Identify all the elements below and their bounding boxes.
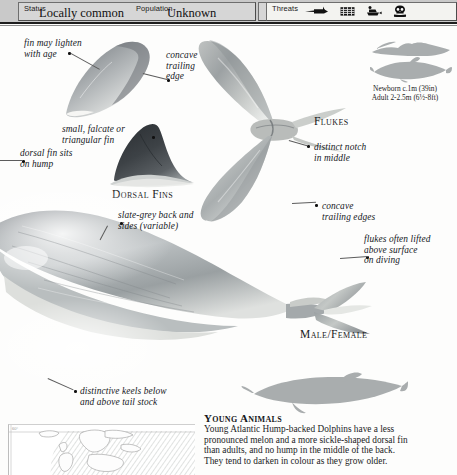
figure-label-male-female: Male/Female bbox=[300, 328, 367, 340]
annotation-dorsal-on-hump: dorsal fin sits on hump bbox=[20, 148, 106, 169]
status-value: Locally common bbox=[39, 6, 124, 21]
threats-label: Threats bbox=[272, 4, 298, 13]
boat-icon[interactable] bbox=[366, 5, 382, 17]
annotation-distinct-notch: distinct notch in middle bbox=[314, 142, 398, 163]
annotation-keels: distinctive keels below and above tail s… bbox=[80, 386, 200, 407]
status-bar-rule bbox=[0, 22, 457, 24]
field-guide-page: Status Locally common Population Unknown… bbox=[0, 0, 457, 475]
status-bar-rule-light bbox=[0, 25, 457, 26]
annotation-fin-lighten: fin may lighten with age bbox=[24, 38, 119, 59]
map-latitude-tick: 60° bbox=[12, 426, 18, 431]
bullet-keels bbox=[74, 390, 77, 393]
status-bar: Status Locally common Population Unknown… bbox=[0, 0, 457, 27]
leader-dorsal-on-hump bbox=[0, 160, 22, 161]
population-value: Unknown bbox=[167, 6, 216, 21]
pollution-skull-icon[interactable] bbox=[393, 5, 407, 17]
bullet-slate-grey bbox=[120, 222, 123, 225]
bullet-concave-trailing-edge bbox=[167, 79, 170, 82]
young-animals-title: Young Animals bbox=[204, 412, 282, 424]
annotation-small-falcate: small, falcate or triangular fin bbox=[62, 124, 162, 145]
head-highlight bbox=[0, 238, 80, 298]
bullet-distinct-notch bbox=[307, 145, 310, 148]
size-adult-label: Adult 2-2.5m (6½-8ft) bbox=[355, 93, 455, 102]
size-newborn-label: Newborn c.1m (39in) bbox=[355, 84, 455, 93]
threat-icon-group bbox=[305, 5, 407, 17]
distribution-map[interactable]: 60° bbox=[8, 424, 195, 475]
net-icon[interactable] bbox=[340, 6, 355, 17]
size-comparison-silhouettes bbox=[370, 36, 452, 84]
annotation-flukes-lifted: flukes often lifted above surface on div… bbox=[364, 234, 454, 266]
harpoon-icon[interactable] bbox=[305, 6, 329, 17]
bullet-small-falcate bbox=[152, 136, 155, 139]
young-animal-silhouette bbox=[236, 372, 408, 414]
annotation-slate-grey: slate-grey back and sides (variable) bbox=[118, 210, 222, 231]
young-animals-body: Young Atlantic Hump-backed Dolphins have… bbox=[204, 424, 456, 466]
figure-label-flukes: Flukes bbox=[314, 115, 349, 127]
bullet-dorsal-on-hump bbox=[22, 160, 25, 163]
